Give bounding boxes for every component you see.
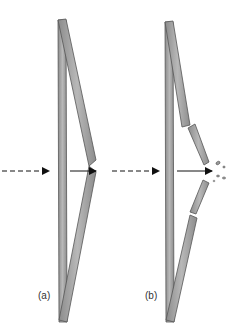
panel-b-label: (b)	[145, 290, 157, 301]
panel-a-label: (a)	[38, 290, 50, 301]
panel-a	[2, 19, 96, 322]
debris-fragments	[213, 161, 226, 182]
diagram-canvas	[0, 0, 244, 329]
bent-strut-lower-fragment-b	[190, 180, 209, 214]
panel-b	[112, 21, 226, 322]
vertical-strut-a	[58, 20, 67, 322]
bent-strut-upper-fragment-b	[188, 124, 209, 165]
